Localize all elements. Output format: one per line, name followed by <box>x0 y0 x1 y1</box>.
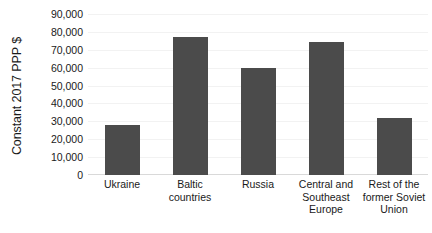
y-axis-tick-label: 0 <box>77 170 83 181</box>
bar-chart: Constant 2017 PPP $ 90,00080,00070,00060… <box>0 0 432 233</box>
y-axis-tick-label: 20,000 <box>51 134 83 145</box>
x-axis-category-labels: UkraineBaltic countriesRussiaCentral and… <box>88 178 428 233</box>
bar <box>105 125 140 175</box>
x-axis-category-label: Central and Southeast Europe <box>292 178 360 216</box>
y-axis-tick-label: 30,000 <box>51 116 83 127</box>
bar <box>377 118 412 175</box>
y-axis-tick-label: 80,000 <box>51 27 83 38</box>
y-axis-tick-label: 70,000 <box>51 45 83 56</box>
x-axis-category-label: Baltic countries <box>156 178 224 203</box>
x-axis-category-label: Rest of the former Soviet Union <box>360 178 428 216</box>
y-axis-tick-label: 90,000 <box>51 9 83 20</box>
bar <box>309 42 344 175</box>
y-axis-tick-labels: 90,00080,00070,00060,00050,00040,00030,0… <box>34 0 87 233</box>
y-axis-tick-label: 10,000 <box>51 152 83 163</box>
y-axis-tick-label: 50,000 <box>51 80 83 91</box>
y-axis-tick-label: 60,000 <box>51 62 83 73</box>
y-axis-title-text: Constant 2017 PPP $ <box>10 37 24 155</box>
x-axis-category-label: Ukraine <box>88 178 156 191</box>
y-axis-title: Constant 2017 PPP $ <box>0 0 34 192</box>
bars-layer <box>88 14 428 175</box>
x-axis-category-label: Russia <box>224 178 292 191</box>
plot-area <box>88 14 428 175</box>
bar <box>173 37 208 175</box>
y-axis-tick-label: 40,000 <box>51 98 83 109</box>
bar <box>241 68 276 175</box>
